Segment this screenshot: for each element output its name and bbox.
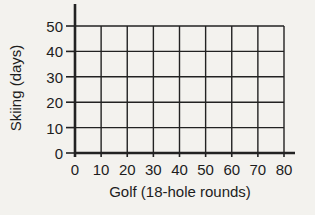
x-tick-label: 40 — [171, 162, 188, 177]
y-tick-label: 40 — [27, 44, 63, 59]
x-tick-label: 20 — [119, 162, 136, 177]
empty-grid-chart: Skiing (days) Golf (18-hole rounds) 0102… — [0, 0, 315, 215]
x-tick-label: 80 — [276, 162, 293, 177]
y-axis-title: Skiing (days) — [8, 45, 23, 132]
y-tick-label: 10 — [27, 120, 63, 135]
x-tick-label: 10 — [93, 162, 110, 177]
y-tick-label: 30 — [27, 69, 63, 84]
x-tick-label: 50 — [197, 162, 214, 177]
y-tick-label: 0 — [27, 146, 63, 161]
x-tick-label: 0 — [71, 162, 79, 177]
x-axis-title: Golf (18-hole rounds) — [109, 184, 251, 199]
x-tick-label: 30 — [145, 162, 162, 177]
x-tick-label: 70 — [250, 162, 267, 177]
x-tick-label: 60 — [223, 162, 240, 177]
y-tick-label: 50 — [27, 19, 63, 34]
y-tick-label: 20 — [27, 95, 63, 110]
